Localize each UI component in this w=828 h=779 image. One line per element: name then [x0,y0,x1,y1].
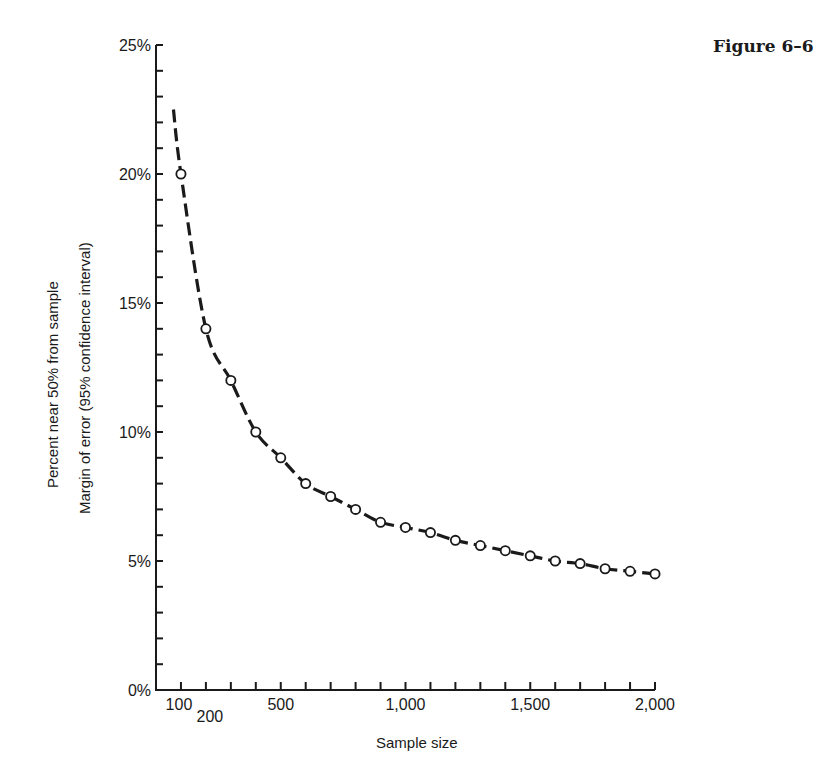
data-point-marker [251,427,260,436]
data-point-marker [625,567,634,576]
data-point-marker [376,518,385,527]
axes [155,45,655,690]
margin-of-error-curve [173,110,655,574]
tick-labels: 0%5%10%15%20%25%1002005001,0001,5002,000 [119,37,675,725]
ticks [156,45,655,690]
data-point-marker [276,453,285,462]
x-tick-label: 1,500 [510,696,550,713]
x-tick-label: 100 [166,696,193,713]
data-point-marker [451,536,460,545]
data-point-marker [351,505,360,514]
y-tick-label: 20% [119,166,151,183]
data-point-marker [226,376,235,385]
data-point-marker [476,541,485,550]
data-point-marker [176,169,185,178]
x-tick-label: 200 [197,708,224,725]
y-tick-label: 0% [128,682,151,699]
data-point-marker [426,528,435,537]
x-tick-label: 2,000 [635,696,675,713]
data-point-marker [601,564,610,573]
y-tick-label: 25% [119,37,151,54]
data-point-marker [576,559,585,568]
data-point-marker [526,551,535,560]
data-point-marker [501,546,510,555]
y-tick-label: 5% [128,553,151,570]
data-point-marker [650,569,659,578]
data-point-marker [551,556,560,565]
x-tick-label: 1,000 [385,696,425,713]
x-tick-label: 500 [267,696,294,713]
data-point-marker [401,523,410,532]
data-point-marker [326,492,335,501]
data-point-marker [301,479,310,488]
data-point-markers [176,169,659,578]
data-point-marker [201,324,210,333]
margin-of-error-chart: 0%5%10%15%20%25%1002005001,0001,5002,000 [0,0,828,779]
y-tick-label: 15% [119,295,151,312]
y-tick-label: 10% [119,424,151,441]
